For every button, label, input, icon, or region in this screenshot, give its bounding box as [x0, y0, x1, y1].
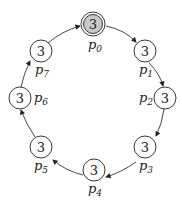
svg-text:3: 3	[37, 44, 45, 59]
svg-text:3: 3	[141, 140, 149, 155]
svg-text:3: 3	[90, 163, 98, 178]
svg-text:3: 3	[161, 91, 169, 106]
edge-p5-p6	[21, 110, 35, 137]
node-p5: 3 p5	[30, 136, 52, 175]
node-p6: 3 p6	[9, 87, 48, 109]
edge-p7-p0	[48, 26, 80, 43]
node-p2: 3 p2	[139, 87, 176, 109]
svg-text:3: 3	[141, 44, 149, 59]
svg-text:p3: p3	[139, 158, 153, 175]
svg-text:p4: p4	[88, 181, 102, 198]
svg-text:p7: p7	[35, 62, 49, 79]
edge-p3-p4	[106, 162, 136, 177]
node-p3: 3 p3	[134, 136, 156, 175]
svg-text:p5: p5	[34, 158, 48, 175]
edge-p6-p7	[21, 61, 30, 87]
edge-p2-p3	[156, 109, 164, 136]
node-p1: 3 p1	[134, 40, 156, 79]
edge-p4-p5	[53, 160, 83, 175]
node-p4: 3 p4	[83, 159, 105, 198]
node-p0: 3 p0	[81, 12, 105, 54]
svg-text:p6: p6	[34, 90, 48, 107]
svg-text:3: 3	[37, 140, 45, 155]
edge-p0-p1	[106, 26, 136, 42]
svg-text:3: 3	[16, 91, 24, 106]
svg-text:p0: p0	[88, 37, 102, 54]
svg-text:p2: p2	[139, 90, 153, 107]
svg-text:3: 3	[89, 17, 97, 32]
node-p7: 3 p7	[30, 40, 52, 79]
ring-diagram: 3 p0 3 p1 3 p2 3 p3 3 p4 3 p5 3 p6 3 p7	[0, 0, 182, 205]
